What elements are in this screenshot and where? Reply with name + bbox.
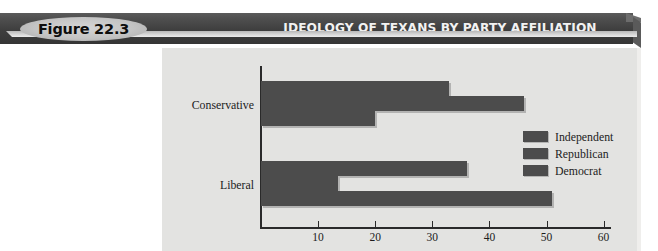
x-tick-30 <box>432 221 433 228</box>
x-tick-50 <box>547 221 548 228</box>
x-tick-40 <box>489 221 490 228</box>
legend-label-democrat: Democrat <box>555 163 602 179</box>
x-tick-60 <box>604 221 605 228</box>
bar-liberal-democrat <box>261 191 552 206</box>
x-axis-line <box>260 227 611 229</box>
legend-swatch-independent <box>523 131 548 142</box>
x-tick-10 <box>318 221 319 228</box>
bar-conservative-independent <box>261 81 449 96</box>
bar-liberal-independent <box>261 161 467 176</box>
legend-label-republican: Republican <box>555 146 609 162</box>
x-tick-label-30: 30 <box>415 231 449 243</box>
category-label-conservative: Conservative <box>158 98 254 113</box>
bar-conservative-democrat <box>261 111 375 126</box>
legend-swatch-republican <box>523 148 548 159</box>
figure-number-label: Figure 22.3 <box>20 17 147 41</box>
legend-swatch-democrat <box>523 165 548 176</box>
figure-screenshot: IDEOLOGY OF TEXANS BY PARTY AFFILIATION … <box>0 0 658 251</box>
figure-title: IDEOLOGY OF TEXANS BY PARTY AFFILIATION <box>250 13 630 44</box>
x-tick-label-50: 50 <box>530 231 564 243</box>
bar-liberal-republican <box>261 176 338 191</box>
x-tick-label-60: 60 <box>587 231 621 243</box>
chart-panel-right-edge <box>637 48 641 251</box>
x-tick-label-40: 40 <box>472 231 506 243</box>
legend-label-independent: Independent <box>555 129 613 145</box>
x-tick-label-20: 20 <box>358 231 392 243</box>
category-label-liberal: Liberal <box>158 178 254 193</box>
x-tick-label-10: 10 <box>301 231 335 243</box>
x-tick-20 <box>375 221 376 228</box>
figure-number-pill: Figure 22.3 <box>20 17 147 41</box>
bar-conservative-republican <box>261 96 524 111</box>
